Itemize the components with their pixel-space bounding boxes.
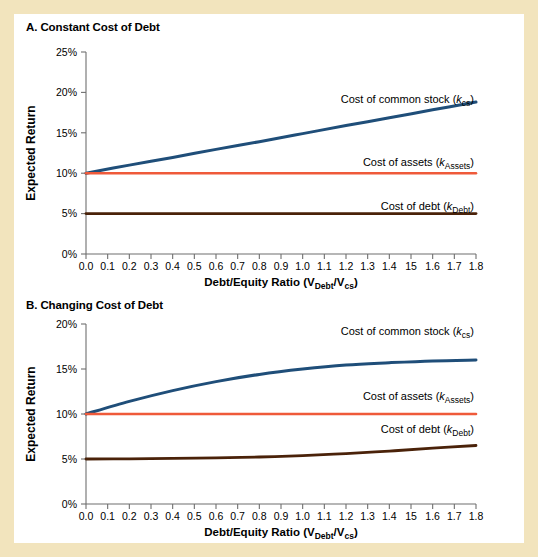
panel-a-label-cs-sub: cs <box>462 98 471 108</box>
x-tick-label: 1.0 <box>295 510 310 522</box>
x-tick-label: 1.0 <box>295 260 310 272</box>
x-tick-label: 0.6 <box>209 510 224 522</box>
panel-a-x-title-sub2: cs <box>344 281 354 291</box>
y-tick-label: 10% <box>56 167 77 179</box>
x-tick-label: 0.2 <box>122 510 137 522</box>
panel-b-y-axis-title: Expected Return <box>24 366 38 461</box>
x-tick-label: 1.4 <box>382 260 397 272</box>
panel-b-label-cs-end: ) <box>470 325 474 337</box>
panel-a-x-title-sub1: Debt <box>315 281 334 291</box>
x-tick-label: 0.8 <box>252 260 267 272</box>
panel-b-label-assets: Cost of assets (kAssets) <box>363 390 474 405</box>
panel-b-x-title-main: Debt/Equity Ratio (V <box>204 526 315 538</box>
panel-a-label-debt-end: ) <box>470 200 474 212</box>
y-tick-label: 20% <box>56 86 77 98</box>
panel-b-x-title-end: ) <box>354 526 358 538</box>
x-tick-label: 15 <box>405 510 417 522</box>
panel-a-x-title-mid: /V <box>334 276 345 288</box>
y-tick-label: 15% <box>56 127 77 139</box>
panel-b-x-axis-title: Debt/Equity Ratio (VDebt/Vcs) <box>204 526 358 541</box>
x-tick-label: 0.1 <box>100 260 115 272</box>
x-tick-label: 15 <box>405 260 417 272</box>
panel-a-x-ticks: 0.00.10.20.30.40.50.60.70.80.91.01.11.21… <box>79 254 484 272</box>
panel-b-label-assets-text: Cost of assets ( <box>363 390 440 402</box>
panel-a-label-debt-sub: Debt <box>452 205 471 215</box>
x-tick-label: 0.7 <box>230 510 245 522</box>
panel-b-line-common-stock <box>86 360 476 414</box>
x-tick-label: 0.3 <box>144 260 159 272</box>
panel-b-x-title-mid: /V <box>334 526 345 538</box>
panel-b-x-title-sub1: Debt <box>315 531 334 541</box>
panel-a-y-ticks: 0%5%10%15%20%25% <box>56 46 86 260</box>
panel-b-plot: 0%5%10%15%20% 0.00.10.20.30.40.50.60.70.… <box>14 292 524 543</box>
x-tick-label: 1.2 <box>339 510 354 522</box>
x-tick-label: 1.6 <box>425 260 440 272</box>
x-tick-label: 0.2 <box>122 260 137 272</box>
x-tick-label: 1.2 <box>339 260 354 272</box>
x-tick-label: 1.4 <box>382 510 397 522</box>
x-tick-label: 0.5 <box>187 260 202 272</box>
x-tick-label: 1.3 <box>360 510 375 522</box>
panel-b-label-cs-text: Cost of common stock ( <box>341 325 457 337</box>
panel-a-plot: 0%5%10%15%20%25% 0.00.10.20.30.40.50.60.… <box>14 14 524 292</box>
panel-b-label-cs-sub: cs <box>462 330 471 340</box>
panel-a-x-axis-title: Debt/Equity Ratio (VDebt/Vcs) <box>204 276 358 291</box>
panel-a-label-cs-end: ) <box>470 93 474 105</box>
panel-b-label-debt-text: Cost of debt ( <box>381 423 447 435</box>
panel-a-x-title-end: ) <box>354 276 358 288</box>
y-tick-label: 5% <box>62 453 77 465</box>
panel-a-x-title-main: Debt/Equity Ratio (V <box>204 276 315 288</box>
panel-a-label-assets-end: ) <box>470 156 474 168</box>
panel-b-label-debt: Cost of debt (kDebt) <box>381 423 474 438</box>
panel-b-line-debt <box>86 446 476 460</box>
y-tick-label: 5% <box>62 207 77 219</box>
panel-a-label-debt-text: Cost of debt ( <box>381 200 447 212</box>
panel-b-label-debt-sub: Debt <box>452 428 471 438</box>
x-tick-label: 0.9 <box>274 510 289 522</box>
panel-b-x-title-sub2: cs <box>344 531 354 541</box>
y-tick-label: 0% <box>62 248 77 260</box>
x-tick-label: 0.3 <box>144 510 159 522</box>
y-tick-label: 15% <box>56 363 77 375</box>
x-tick-label: 0.4 <box>165 260 180 272</box>
x-tick-label: 1.7 <box>447 260 462 272</box>
x-tick-label: 0.0 <box>79 260 94 272</box>
panel-a-label-assets: Cost of assets (kAssets) <box>363 156 474 171</box>
x-tick-label: 1.7 <box>447 510 462 522</box>
figure-frame: A. Constant Cost of Debt 0%5%10%15%20%25… <box>0 0 538 557</box>
x-tick-label: 0.0 <box>79 510 94 522</box>
panel-b-x-ticks: 0.00.10.20.30.40.50.60.70.80.91.01.11.21… <box>79 504 484 522</box>
x-tick-label: 1.1 <box>317 260 332 272</box>
panel-a-label-assets-text: Cost of assets ( <box>363 156 440 168</box>
panel-b-label-common-stock: Cost of common stock (kcs) <box>341 325 474 340</box>
panel-a-label-cs-text: Cost of common stock ( <box>341 93 457 105</box>
panel-a-constant-cost-of-debt: A. Constant Cost of Debt 0%5%10%15%20%25… <box>14 14 524 292</box>
y-tick-label: 25% <box>56 46 77 58</box>
x-tick-label: 0.4 <box>165 510 180 522</box>
panel-b-y-ticks: 0%5%10%15%20% <box>56 318 86 510</box>
panel-b-label-assets-end: ) <box>470 390 474 402</box>
x-tick-label: 0.7 <box>230 260 245 272</box>
y-tick-label: 0% <box>62 498 77 510</box>
x-tick-label: 0.1 <box>100 510 115 522</box>
x-tick-label: 1.8 <box>469 260 484 272</box>
panel-b-label-debt-end: ) <box>470 423 474 435</box>
y-tick-label: 10% <box>56 408 77 420</box>
panel-a-label-assets-sub: Assets <box>445 161 471 171</box>
x-tick-label: 1.8 <box>469 510 484 522</box>
panel-b-label-assets-sub: Assets <box>445 395 471 405</box>
panel-b-changing-cost-of-debt: B. Changing Cost of Debt 0%5%10%15%20% 0… <box>14 292 524 543</box>
panel-a-y-axis-title: Expected Return <box>24 105 38 200</box>
x-tick-label: 1.1 <box>317 510 332 522</box>
x-tick-label: 0.6 <box>209 260 224 272</box>
y-tick-label: 20% <box>56 318 77 330</box>
x-tick-label: 0.8 <box>252 510 267 522</box>
x-tick-label: 0.5 <box>187 510 202 522</box>
x-tick-label: 0.9 <box>274 260 289 272</box>
x-tick-label: 1.3 <box>360 260 375 272</box>
x-tick-label: 1.6 <box>425 510 440 522</box>
